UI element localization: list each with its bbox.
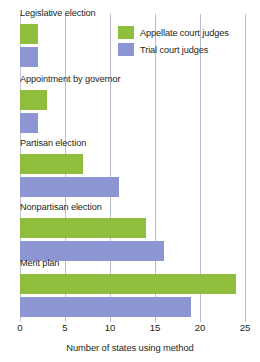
legend-label-trial: Trial court judges	[140, 45, 208, 55]
x-tick-label-25: 25	[240, 322, 251, 333]
category-label: Legislative election	[20, 8, 96, 18]
bar-appellate	[20, 218, 146, 238]
bar-appellate	[20, 274, 236, 294]
bar-trial	[20, 113, 38, 133]
category-label: Partisan election	[20, 138, 86, 148]
gridline-25	[245, 14, 246, 322]
bar-appellate	[20, 24, 38, 44]
x-tick-label-15: 15	[150, 322, 161, 333]
category-label: Nonpartisan election	[20, 202, 102, 212]
bar-trial	[20, 177, 119, 197]
bar-chart: Legislative electionAppointment by gover…	[0, 0, 260, 362]
x-tick-label-20: 20	[195, 322, 206, 333]
chart-legend: Appellate court judges Trial court judge…	[118, 24, 254, 58]
bar-appellate	[20, 90, 47, 110]
x-tick-label-5: 5	[62, 322, 67, 333]
legend-label-appellate: Appellate court judges	[140, 28, 229, 38]
bar-trial	[20, 297, 191, 317]
category-label: Appointment by governor	[20, 74, 120, 84]
legend-swatch-appellate-icon	[118, 26, 134, 39]
bar-trial	[20, 47, 38, 67]
legend-swatch-trial-icon	[118, 43, 134, 56]
x-axis-label: Number of states using method	[0, 342, 260, 353]
legend-item-trial: Trial court judges	[118, 41, 254, 58]
bar-appellate	[20, 154, 83, 174]
x-tick-label-10: 10	[105, 322, 116, 333]
x-axis: Number of states using method 0510152025	[0, 322, 260, 362]
category-label: Merit plan	[20, 258, 59, 268]
x-tick-label-0: 0	[17, 322, 22, 333]
legend-item-appellate: Appellate court judges	[118, 24, 254, 41]
